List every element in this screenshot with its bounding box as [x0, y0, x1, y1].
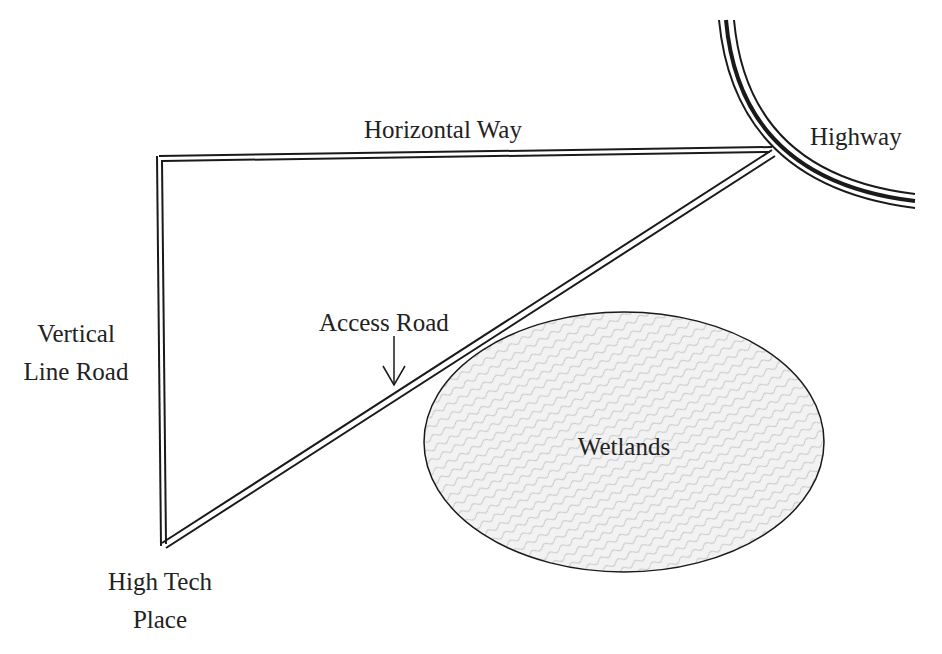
horizontal-way-road — [159, 147, 772, 161]
highway-road — [719, 20, 915, 208]
diagram-svg: Horizontal Way Highway Vertical Line Roa… — [0, 0, 942, 654]
road-map-diagram: Horizontal Way Highway Vertical Line Roa… — [0, 0, 942, 654]
high-tech-place-label-line1: High Tech — [108, 568, 213, 595]
high-tech-place-label-line2: Place — [133, 606, 187, 633]
wetlands-label: Wetlands — [578, 433, 670, 460]
vertical-line-road-label-line1: Vertical — [37, 320, 115, 347]
horizontal-way-label: Horizontal Way — [364, 116, 522, 143]
vertical-line-road-label-line2: Line Road — [24, 358, 129, 385]
access-road-label: Access Road — [319, 309, 449, 336]
highway-label: Highway — [810, 123, 902, 150]
access-road-arrow-icon — [383, 336, 405, 385]
vertical-line-road — [157, 156, 166, 546]
